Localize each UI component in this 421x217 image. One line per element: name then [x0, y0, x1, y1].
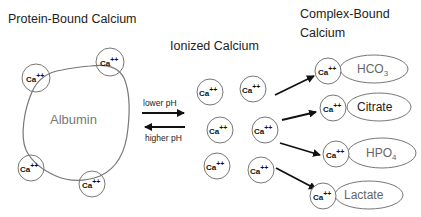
- svg-text:Ca++: Ca++: [242, 83, 260, 95]
- protein-ion: Ca++: [22, 64, 50, 92]
- svg-text:HPO4: HPO4: [366, 146, 397, 162]
- complex-arrow-icon: [280, 143, 320, 155]
- higher-ph-label: higher pH: [145, 133, 182, 143]
- svg-text:Ca++: Ca++: [20, 162, 38, 174]
- ionized-title: Ionized Calcium: [170, 39, 259, 53]
- ionized-ion: Ca++: [207, 117, 233, 143]
- protein-ion: Ca++: [96, 48, 124, 76]
- complex-hpo4: Ca++ HPO4: [323, 138, 416, 168]
- complex-bound-title-line1: Complex-Bound: [300, 7, 390, 21]
- ionized-ion: Ca++: [197, 79, 223, 105]
- svg-text:Ca++: Ca++: [199, 86, 217, 98]
- svg-text:Ca++: Ca++: [209, 124, 227, 136]
- complex-bound-title-line2: Calcium: [300, 26, 345, 40]
- complex-arrow-icon: [276, 168, 316, 189]
- protein-bound-title: Protein-Bound Calcium: [8, 12, 137, 26]
- lower-ph-label: lower pH: [143, 98, 177, 108]
- svg-text:HCO3: HCO3: [357, 62, 389, 78]
- complex-arrow-icon: [275, 76, 314, 95]
- ionized-ion: Ca++: [248, 157, 274, 183]
- protein-ion: Ca++: [79, 171, 105, 197]
- svg-text:Ca++: Ca++: [250, 164, 268, 176]
- calcium-forms-diagram: Protein-Bound Calcium Ionized Calcium Co…: [0, 0, 421, 217]
- complex-arrow-icon: [282, 112, 316, 120]
- protein-ion: Ca++: [18, 155, 44, 181]
- svg-text:Ca++: Ca++: [206, 160, 224, 172]
- complex-hco3: Ca++ HCO3: [315, 55, 408, 84]
- svg-text:Ca++: Ca++: [254, 124, 272, 136]
- ionized-ion: Ca++: [204, 153, 230, 179]
- complex-lactate: Ca++ Lactate: [310, 181, 403, 209]
- complex-citrate: Ca++ Citrate: [320, 93, 411, 121]
- svg-text:Ca++: Ca++: [26, 72, 44, 84]
- svg-text:Citrate: Citrate: [357, 100, 393, 114]
- albumin-label: Albumin: [50, 112, 97, 127]
- ionized-ion: Ca++: [240, 76, 266, 102]
- svg-text:Lactate: Lactate: [344, 188, 384, 202]
- svg-text:Ca++: Ca++: [100, 56, 118, 68]
- ionized-ion: Ca++: [252, 117, 278, 143]
